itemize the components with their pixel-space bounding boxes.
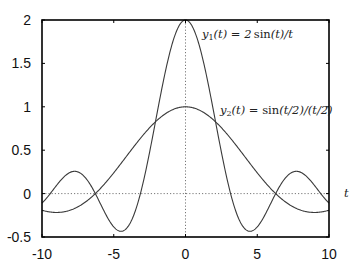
annotation-y1: y1(t) = 2 sin(t)/t bbox=[201, 27, 293, 42]
y-tick-label: 1 bbox=[23, 99, 31, 115]
x-tick-label: 10 bbox=[321, 246, 337, 262]
y-tick-labels: -0.500.511.52 bbox=[7, 12, 31, 245]
y-tick-label: 1.5 bbox=[12, 55, 32, 71]
y-tick-label: 0.5 bbox=[12, 142, 32, 158]
x-tick-label: -5 bbox=[108, 246, 121, 262]
x-tick-label: 0 bbox=[182, 246, 190, 262]
zero-axis-lines bbox=[42, 20, 329, 237]
x-tick-label: 5 bbox=[253, 246, 261, 262]
y-tick-label: 0 bbox=[23, 186, 31, 202]
y-tick-label: 2 bbox=[23, 12, 31, 28]
line-chart: -10-50510 -0.500.511.52 y1(t) = 2 sin(t)… bbox=[0, 0, 364, 271]
x-tick-label: -10 bbox=[32, 246, 52, 262]
x-tick-labels: -10-50510 bbox=[32, 246, 337, 262]
y-tick-label: -0.5 bbox=[7, 229, 31, 245]
annotation-y2: y2(t) = sin(t/2)/(t/2) bbox=[219, 103, 333, 118]
x-axis-label: t bbox=[344, 186, 349, 200]
